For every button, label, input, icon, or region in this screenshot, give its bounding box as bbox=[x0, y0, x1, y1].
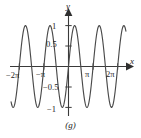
figure-container: −2π −π π 2π 1 0.5 −0.5 −1 y x (g) bbox=[0, 0, 141, 138]
y-axis-label: y bbox=[66, 2, 70, 11]
y-tick-label-0.5: 0.5 bbox=[46, 40, 57, 49]
y-tick-label--1: −1 bbox=[47, 105, 56, 114]
y-tick-label-1: 1 bbox=[52, 22, 56, 31]
x-tick-label--pi: −π bbox=[36, 70, 45, 79]
figure-caption: (g) bbox=[0, 121, 141, 130]
x-axis-label: x bbox=[130, 57, 134, 66]
x-tick-label-pi: π bbox=[85, 70, 89, 79]
y-tick-label--0.5: −0.5 bbox=[43, 83, 58, 92]
x-tick-label--2pi: −2π bbox=[6, 71, 19, 80]
plot-canvas bbox=[0, 0, 141, 138]
x-tick-label-2pi: 2π bbox=[106, 70, 115, 79]
